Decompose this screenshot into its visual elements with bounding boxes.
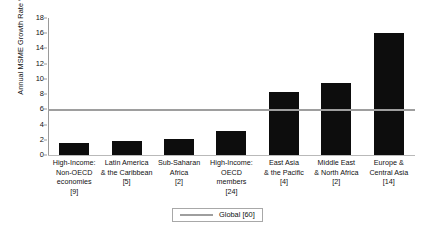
category-label-line: OECD members: [205, 168, 257, 187]
bar[interactable]: [59, 143, 89, 155]
x-axis-category-label: Middle East& North Africa[2]: [310, 158, 362, 187]
category-label-line: Sub-Saharan: [153, 158, 205, 168]
y-axis-ticks: 024681012141618: [0, 18, 44, 155]
bar-slot: [205, 18, 257, 155]
category-label-line: East Asia: [258, 158, 310, 168]
category-label-line: & the Pacific: [258, 168, 310, 178]
bar-slot: [48, 18, 100, 155]
y-axis-tick-mark: [44, 139, 47, 140]
y-axis-tick-label: 2: [4, 136, 44, 144]
category-label-line: Middle East: [310, 158, 362, 168]
y-axis-tick-label: 16: [4, 29, 44, 37]
category-label-line: [14]: [363, 177, 415, 187]
bar-slot: [258, 18, 310, 155]
x-axis-category-labels: High-Income:Non-OECDeconomies[9]Latin Am…: [48, 158, 415, 200]
y-axis-tick-mark: [44, 48, 47, 49]
y-axis-tick-label: 12: [4, 60, 44, 68]
category-label-line: [2]: [153, 177, 205, 187]
category-label-line: High-Income:: [205, 158, 257, 168]
chart-legend: Global [60]: [172, 208, 263, 222]
x-axis-category-label: Latin America& the Caribbean[5]: [100, 158, 152, 187]
bar[interactable]: [164, 139, 194, 155]
category-label-line: [2]: [310, 177, 362, 187]
y-axis-tick-mark: [44, 18, 47, 19]
category-label-line: & the Caribbean: [100, 168, 152, 178]
y-axis-tick-mark: [44, 109, 47, 110]
bar-slot: [363, 18, 415, 155]
category-label-line: [5]: [100, 177, 152, 187]
x-axis-category-label: Europe &Central Asia[14]: [363, 158, 415, 187]
bar[interactable]: [216, 131, 246, 155]
bars-area: [48, 18, 415, 155]
category-label-line: Central Asia: [363, 168, 415, 178]
y-axis-tick-label: 4: [4, 121, 44, 129]
y-axis-tick-mark: [44, 124, 47, 125]
y-axis-tick-mark: [44, 155, 47, 156]
category-label-line: Latin America: [100, 158, 152, 168]
y-axis-tick-mark: [44, 94, 47, 95]
y-axis-tick-mark: [44, 78, 47, 79]
y-axis-tick-label: 18: [4, 14, 44, 22]
bar[interactable]: [374, 33, 404, 155]
y-axis-tick-label: 0: [4, 151, 44, 159]
legend-line-swatch: [180, 214, 213, 216]
chart-container: Annual MSME Growth Rate % 02468101214161…: [0, 0, 423, 233]
bar[interactable]: [321, 83, 351, 155]
y-axis-tick-label: 14: [4, 45, 44, 53]
category-label-line: economies: [48, 177, 100, 187]
category-label-line: [4]: [258, 177, 310, 187]
y-axis-tick-mark: [44, 33, 47, 34]
y-axis-tick-label: 10: [4, 75, 44, 83]
x-axis-category-label: East Asia& the Pacific[4]: [258, 158, 310, 187]
x-axis-category-label: High-Income:OECD members[24]: [205, 158, 257, 196]
bar-slot: [153, 18, 205, 155]
bar[interactable]: [269, 92, 299, 155]
y-axis-tick-label: 6: [4, 106, 44, 114]
category-label-line: [24]: [205, 187, 257, 197]
category-label-line: [9]: [48, 187, 100, 197]
category-label-line: Non-OECD: [48, 168, 100, 178]
bar[interactable]: [112, 141, 142, 155]
category-label-line: Africa: [153, 168, 205, 178]
bar-slot: [100, 18, 152, 155]
x-axis-baseline: [48, 155, 415, 156]
category-label-line: High-Income:: [48, 158, 100, 168]
category-label-line: & North Africa: [310, 168, 362, 178]
category-label-line: Europe &: [363, 158, 415, 168]
y-axis-tick-mark: [44, 63, 47, 64]
global-reference-line: [48, 109, 415, 111]
legend-item-label: Global [60]: [219, 211, 255, 218]
x-axis-category-label: High-Income:Non-OECDeconomies[9]: [48, 158, 100, 196]
x-axis-category-label: Sub-SaharanAfrica[2]: [153, 158, 205, 187]
y-axis-tick-label: 8: [4, 90, 44, 98]
bar-slot: [310, 18, 362, 155]
